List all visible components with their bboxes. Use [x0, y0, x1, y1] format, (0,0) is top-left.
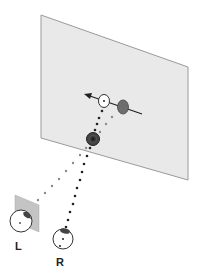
binocular-diagram: L R: [0, 0, 198, 273]
gray-disc: [118, 100, 129, 114]
dark-disc-center: [92, 138, 94, 140]
right-eye-label: R: [56, 256, 64, 268]
left-eye: [10, 210, 32, 232]
projection-plane: [41, 15, 188, 180]
left-eye-label: L: [15, 240, 22, 252]
white-disc-center: [103, 100, 105, 102]
right-eye: [53, 227, 73, 249]
